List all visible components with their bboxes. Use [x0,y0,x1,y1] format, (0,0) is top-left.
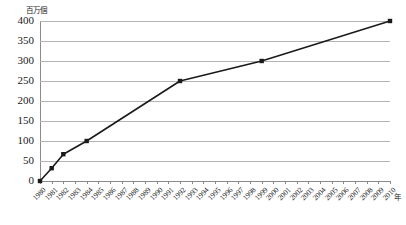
series-line-layer [0,0,406,225]
data-point-marker [61,152,65,156]
series-line [40,21,390,181]
data-point-marker [388,19,392,23]
data-point-marker [178,79,182,83]
data-point-marker [49,166,53,170]
data-point-marker [259,59,263,63]
data-point-marker [84,139,88,143]
data-point-marker [38,179,42,183]
line-chart: 百万個 400350300250200150100500 19801981198… [0,0,406,225]
